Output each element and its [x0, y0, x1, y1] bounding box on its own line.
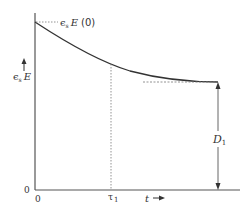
- x-label-arrow-icon: [159, 196, 165, 201]
- d1-subscript: 1: [222, 139, 226, 147]
- tau-symbol: τ: [108, 192, 113, 202]
- y-label-subscript: s: [19, 76, 22, 83]
- initial-label-subscript: s: [66, 22, 69, 29]
- initial-value-label: ϵsE(0): [60, 17, 95, 29]
- decay-curve: [35, 22, 218, 82]
- initial-label-var: E: [70, 17, 79, 28]
- y-origin-label: 0: [24, 185, 30, 195]
- d1-arrow-down-icon: [216, 183, 221, 190]
- d1-arrow-up-icon: [216, 82, 221, 89]
- y-label-arrow-icon: [22, 58, 27, 64]
- x-axis-label: t: [145, 193, 150, 204]
- y-label-var: E: [23, 71, 32, 82]
- tau-subscript: 1: [114, 196, 118, 204]
- decay-diagram: ϵsE ϵsE(0) 0 0 τ1 t D1: [0, 0, 246, 206]
- x-origin-label: 0: [35, 194, 41, 204]
- initial-label-arg: (0): [81, 17, 95, 28]
- tau-label: τ1: [108, 192, 118, 204]
- d1-var: D: [212, 133, 222, 146]
- y-axis-label: ϵsE: [13, 71, 32, 83]
